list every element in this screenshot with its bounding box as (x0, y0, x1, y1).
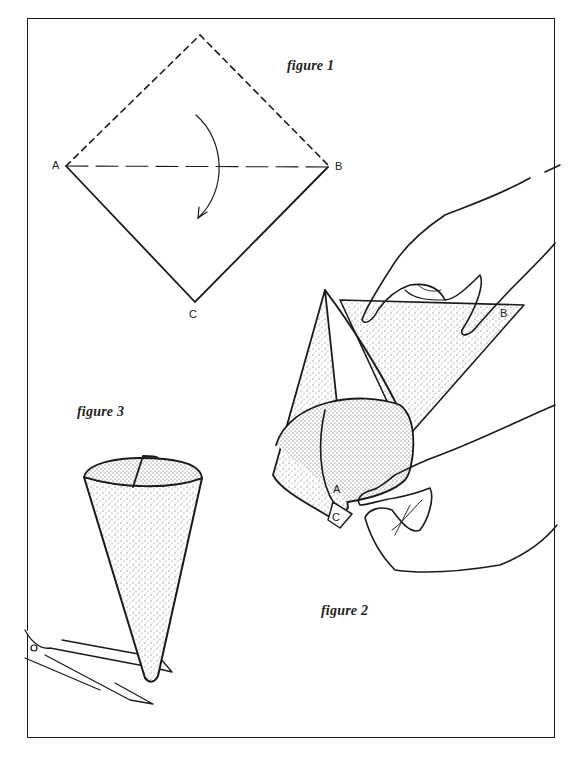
triangle-bottom-half (66, 166, 328, 302)
cone-rim (84, 458, 202, 486)
fold-top-half-dashed (66, 35, 328, 166)
figure-1-caption: figure 1 (287, 58, 334, 74)
figure-3-caption: figure 3 (77, 404, 124, 420)
illustration-canvas (0, 0, 573, 758)
figure-1-point-a: A (52, 159, 59, 171)
figure-2-caption: figure 2 (321, 603, 368, 619)
figure-2-point-c: C (332, 511, 340, 523)
figure-1-point-c: C (189, 308, 197, 320)
figure-2-drawing (273, 165, 560, 572)
figure-2-point-a: A (333, 483, 340, 495)
figure-1-diagram (66, 35, 328, 302)
figure-2-point-b: B (500, 307, 507, 319)
figure-1-point-b: B (335, 160, 342, 172)
figure-3-drawing (25, 456, 202, 704)
fold-line-ab (66, 166, 328, 167)
